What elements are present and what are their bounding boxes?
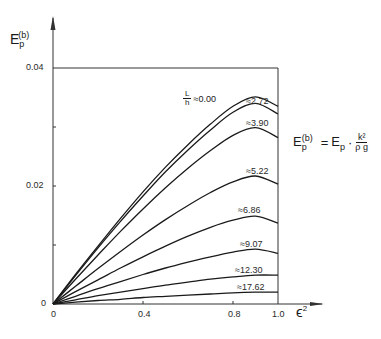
y-tick-0.04: 0.04 bbox=[26, 63, 44, 72]
formula-lhs: Ep(b) bbox=[293, 133, 318, 152]
curve-label-3.90: ≈3.90 bbox=[246, 119, 268, 128]
x-tick-0.4: 0.4 bbox=[138, 310, 151, 319]
curve-label-5.22: ≈5.22 bbox=[246, 167, 268, 176]
curve-label-9.07: ≈9.07 bbox=[240, 240, 262, 249]
formula-denominator: ρ g bbox=[355, 143, 368, 152]
y-tick-0: 0 bbox=[41, 299, 46, 308]
formula-fraction: k² ρ g bbox=[355, 133, 368, 153]
x-label-sup: 2 bbox=[303, 304, 307, 313]
lh-value: ≈0.00 bbox=[193, 94, 215, 104]
parameter-label: L h ≈0.00 bbox=[183, 90, 216, 108]
x-tick-0: 0 bbox=[51, 310, 56, 319]
formula-annotation: Ep(b) = Ep · k² ρ g bbox=[293, 133, 368, 153]
y-tick-0.02: 0.02 bbox=[26, 181, 44, 190]
lh-fraction: L h bbox=[183, 90, 191, 108]
y-label-sup: (b) bbox=[18, 30, 29, 40]
y-label-sub: p bbox=[19, 39, 24, 49]
lh-denominator: h bbox=[185, 99, 189, 107]
curve-label-17.62: ≈17.62 bbox=[237, 283, 264, 292]
x-axis-label: ϵ2 bbox=[296, 303, 307, 320]
x-tick-1.0: 1.0 bbox=[272, 310, 285, 319]
formula-rhs: Ep bbox=[331, 134, 345, 152]
curve-label-12.30: ≈12.30 bbox=[235, 266, 262, 275]
y-axis-label: Ep(b) bbox=[10, 30, 35, 49]
curve-label-2.72: ≈2.72 bbox=[246, 97, 268, 106]
formula-equals: = bbox=[321, 135, 329, 150]
formula-dot: · bbox=[348, 135, 352, 150]
x-label-main: ϵ bbox=[296, 303, 303, 320]
chart-canvas bbox=[0, 0, 381, 339]
curve-label-6.86: ≈6.86 bbox=[238, 206, 260, 215]
x-tick-0.8: 0.8 bbox=[228, 310, 241, 319]
